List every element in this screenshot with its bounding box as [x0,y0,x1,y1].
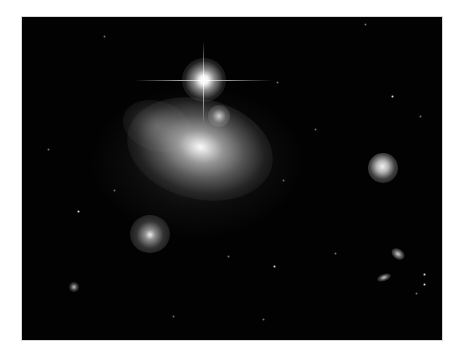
small-galaxy-lower-right-1 [389,246,406,262]
point-star [423,283,426,286]
point-star [276,81,279,84]
point-star [334,252,337,255]
right-compact-galaxy [368,153,398,183]
point-star [47,148,50,151]
point-star [113,189,116,192]
point-star [77,210,80,213]
point-star [314,128,317,131]
point-star [103,35,106,38]
point-star [273,265,276,268]
astronomy-image [21,16,443,341]
point-star [415,292,418,295]
bright-foreground-star [182,58,226,102]
point-star [282,179,285,182]
small-galaxy-lower-right-2 [376,272,392,283]
point-star [423,273,426,276]
point-star [419,115,422,118]
secondary-nucleus [208,105,230,127]
point-star [391,95,394,98]
point-star [227,255,230,258]
small-galaxy-lower-left [69,282,79,292]
point-star [172,315,175,318]
lower-left-galaxy [130,215,170,253]
point-star [262,318,265,321]
point-star [364,23,367,26]
